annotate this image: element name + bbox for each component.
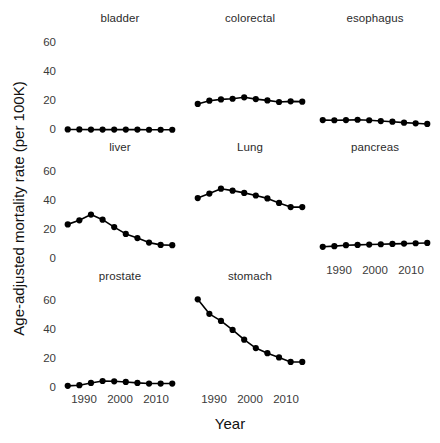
y-tick-60-row-2: 60 [32, 294, 56, 306]
y-axis-title: Age-adjusted mortality rate (per 100K) [10, 59, 27, 359]
x-tick-2000-prostate: 2000 [107, 393, 133, 405]
x-tick-2010-pancreas: 2010 [398, 264, 424, 276]
plot-area-lung [190, 159, 310, 272]
series-liver [60, 159, 180, 272]
panel-title-stomach: stomach [190, 270, 310, 282]
series-pancreas [315, 159, 435, 272]
panel-lung: Lung [190, 141, 310, 272]
panel-title-esophagus: esophagus [315, 12, 435, 24]
plot-area-colorectal [190, 30, 310, 143]
x-tick-2010-prostate: 2010 [143, 393, 169, 405]
panel-title-lung: Lung [190, 141, 310, 153]
x-tick-2000-pancreas: 2000 [362, 264, 388, 276]
y-tick-20-row-2: 20 [32, 352, 56, 364]
panel-title-colorectal: colorectal [190, 12, 310, 24]
y-tick-60-row-0: 60 [32, 36, 56, 48]
y-axis-row-2: 60 40 20 0 [30, 258, 56, 401]
x-tick-2010-stomach: 2010 [273, 393, 299, 405]
plot-area-prostate [60, 288, 180, 401]
panel-title-liver: liver [60, 141, 180, 153]
series-esophagus [315, 30, 435, 143]
panel-stomach: stomach [190, 270, 310, 401]
y-axis-row-0: 60 40 20 0 [30, 0, 56, 143]
plot-area-pancreas [315, 159, 435, 272]
plot-area-esophagus [315, 30, 435, 143]
panel-liver: liver [60, 141, 180, 272]
series-bladder [60, 30, 180, 143]
panel-title-bladder: bladder [60, 12, 180, 24]
plot-area-bladder [60, 30, 180, 143]
x-tick-1990-stomach: 1990 [201, 393, 227, 405]
y-tick-40-row-1: 40 [32, 194, 56, 206]
x-axis-ticks-pancreas: 1990 2000 2010 [315, 264, 435, 280]
series-prostate [60, 288, 180, 401]
panel-colorectal: colorectal [190, 12, 310, 143]
series-stomach [190, 288, 310, 401]
x-axis-ticks-stomach: 1990 2000 2010 [190, 393, 310, 409]
faceted-line-chart: Age-adjusted mortality rate (per 100K) Y… [0, 0, 440, 443]
y-tick-60-row-1: 60 [32, 165, 56, 177]
y-axis-row-1: 60 40 20 0 [30, 129, 56, 272]
y-tick-40-row-0: 40 [32, 65, 56, 77]
x-tick-2000-stomach: 2000 [237, 393, 263, 405]
panel-esophagus: esophagus [315, 12, 435, 143]
panel-title-prostate: prostate [60, 270, 180, 282]
series-lung [190, 159, 310, 272]
y-tick-20-row-1: 20 [32, 223, 56, 235]
panel-prostate: prostate [60, 270, 180, 401]
y-tick-40-row-2: 40 [32, 323, 56, 335]
y-tick-20-row-0: 20 [32, 94, 56, 106]
plot-area-stomach [190, 288, 310, 401]
y-tick-0-row-2: 0 [32, 381, 56, 393]
plot-area-liver [60, 159, 180, 272]
x-axis-ticks-prostate: 1990 2000 2010 [60, 393, 180, 409]
panel-pancreas: pancreas [315, 141, 435, 272]
x-axis-title: Year [150, 415, 310, 432]
x-tick-1990-pancreas: 1990 [326, 264, 352, 276]
x-tick-1990-prostate: 1990 [71, 393, 97, 405]
panel-title-pancreas: pancreas [315, 141, 435, 153]
panel-bladder: bladder [60, 12, 180, 143]
series-colorectal [190, 30, 310, 143]
